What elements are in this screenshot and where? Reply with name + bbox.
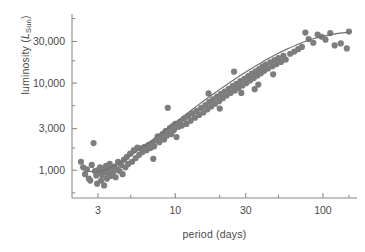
data-point — [165, 105, 171, 111]
data-point — [90, 140, 96, 146]
data-point — [338, 40, 344, 46]
y-axis-title-symbol: L — [19, 33, 31, 39]
x-axis-title: period (days) — [72, 228, 357, 240]
y-tick-label: 3,000 — [39, 122, 65, 134]
y-axis-title: luminosity (LSun) — [19, 0, 33, 115]
data-point — [255, 82, 261, 88]
data-point — [346, 28, 352, 34]
data-point — [173, 134, 179, 140]
x-tick-label: 30 — [240, 204, 252, 216]
data-point — [101, 182, 107, 188]
x-tick-label: 10 — [169, 204, 181, 216]
data-point — [217, 105, 223, 111]
data-point — [238, 90, 244, 96]
data-point — [150, 156, 156, 162]
figure-container: 1,0003,00010,00030,00031030100 luminosit… — [0, 0, 365, 252]
y-tick-label: 30,000 — [33, 35, 65, 47]
data-point — [283, 56, 289, 62]
y-axis-title-main: luminosity ( — [19, 39, 31, 95]
data-point — [87, 178, 93, 184]
data-point — [231, 69, 237, 75]
y-tick-label: 1,000 — [39, 164, 65, 176]
data-point — [310, 40, 316, 46]
y-tick-label: 10,000 — [33, 77, 65, 89]
data-point — [113, 174, 119, 180]
data-point — [344, 45, 350, 51]
data-point — [322, 37, 328, 43]
x-tick-label: 3 — [95, 204, 101, 216]
chart-plot-area: 1,0003,00010,00030,00031030100 — [0, 0, 365, 252]
data-point — [332, 42, 338, 48]
data-point — [270, 71, 276, 77]
data-point — [89, 162, 95, 168]
y-axis-title-close: ) — [19, 15, 31, 19]
data-point — [299, 44, 305, 50]
x-tick-label: 100 — [314, 204, 332, 216]
data-points-group — [78, 28, 352, 188]
y-axis-title-subscript: Sun — [24, 19, 33, 33]
data-point — [119, 171, 125, 177]
data-point — [151, 143, 157, 149]
data-point — [78, 159, 84, 165]
data-point — [302, 29, 308, 35]
